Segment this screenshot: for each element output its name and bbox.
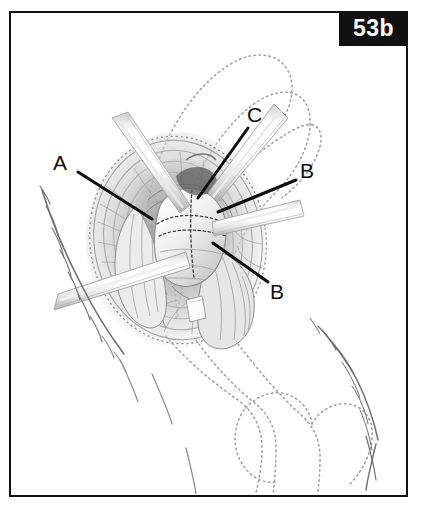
callout-label-b-bottom: B [270,281,284,302]
figure-number-badge: 53b [339,11,408,46]
lower-contour-sketch [120,360,196,494]
callout-label-c: C [247,104,262,125]
figure-container: A C B B 53b [0,0,421,509]
retractor-blade-tip-lower [186,296,206,322]
surgical-illustration [0,0,421,509]
callout-label-b-top: B [300,160,314,181]
callout-label-a: A [53,152,67,173]
dotted-bone-outline-femur [166,336,372,504]
